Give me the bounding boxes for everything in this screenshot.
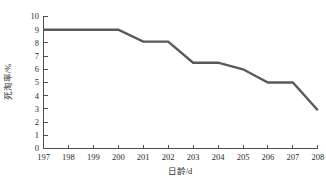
y-tick-label: 5 bbox=[35, 77, 39, 87]
x-tick-label: 206 bbox=[262, 152, 275, 162]
y-axis: 0 1 2 3 4 5 6 7 8 9 10 bbox=[31, 11, 48, 153]
y-tick-label: 2 bbox=[35, 117, 39, 127]
x-tick-label: 198 bbox=[62, 152, 75, 162]
mortality-rate-line-chart: 0 1 2 3 4 5 6 7 8 9 10 bbox=[0, 0, 326, 181]
y-tick-label: 9 bbox=[35, 25, 39, 35]
x-tick-label: 197 bbox=[37, 152, 50, 162]
y-axis-tick-labels: 0 1 2 3 4 5 6 7 8 9 10 bbox=[31, 11, 40, 153]
x-tick-label: 208 bbox=[311, 152, 324, 162]
y-axis-title: 死淘率/% bbox=[3, 64, 13, 100]
x-tick-label: 203 bbox=[187, 152, 200, 162]
x-tick-label: 204 bbox=[212, 152, 226, 162]
x-tick-label: 207 bbox=[286, 152, 299, 162]
y-tick-label: 7 bbox=[35, 51, 39, 61]
x-axis-tick-labels: 197 198 199 200 201 202 203 204 205 206 … bbox=[37, 152, 324, 162]
x-axis-title: 日龄/d bbox=[168, 166, 193, 176]
x-tick-label: 205 bbox=[237, 152, 250, 162]
y-tick-label: 10 bbox=[31, 11, 40, 21]
x-tick-label: 202 bbox=[162, 152, 175, 162]
x-tick-label: 199 bbox=[87, 152, 100, 162]
chart-canvas: 0 1 2 3 4 5 6 7 8 9 10 bbox=[0, 0, 326, 181]
x-tick-label: 201 bbox=[137, 152, 150, 162]
x-axis-ticks bbox=[44, 145, 318, 149]
y-tick-label: 3 bbox=[35, 104, 39, 114]
y-axis-ticks bbox=[44, 17, 48, 149]
x-axis: 197 198 199 200 201 202 203 204 205 206 … bbox=[37, 145, 324, 162]
mortality-rate-series-line bbox=[44, 30, 318, 111]
y-tick-label: 8 bbox=[35, 38, 39, 48]
y-tick-label: 4 bbox=[35, 91, 40, 101]
y-tick-label: 6 bbox=[35, 64, 39, 74]
x-tick-label: 200 bbox=[112, 152, 125, 162]
y-tick-label: 1 bbox=[35, 130, 39, 140]
